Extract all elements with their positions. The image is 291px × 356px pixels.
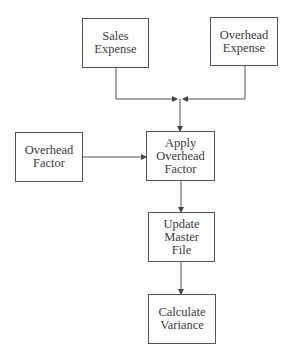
node-label-line: Variance <box>160 319 204 332</box>
node-label-line: Factor <box>33 157 65 170</box>
node-label-line: Overhead <box>156 150 205 163</box>
sales-to-junction-line <box>116 68 177 99</box>
overhead-expense-box: Overhead Expense <box>210 17 278 66</box>
node-label-line: Expense <box>94 43 136 56</box>
node-label-line: Factor <box>165 163 197 176</box>
sales-expense-box: Sales Expense <box>82 18 149 68</box>
node-label-line: File <box>172 244 191 257</box>
node-label-line: Master <box>164 231 199 244</box>
node-label-line: Apply <box>165 137 196 150</box>
update-master-file-box: Update Master File <box>148 212 215 262</box>
node-label-line: Overhead <box>220 29 269 42</box>
node-label-line: Expense <box>223 42 265 55</box>
calculate-variance-box: Calculate Variance <box>148 294 216 344</box>
node-label-line: Update <box>163 218 199 231</box>
overhead-factor-box: Overhead Factor <box>15 132 83 182</box>
overhead-expense-to-junction-line <box>183 66 245 99</box>
apply-overhead-factor-box: Apply Overhead Factor <box>146 131 215 181</box>
